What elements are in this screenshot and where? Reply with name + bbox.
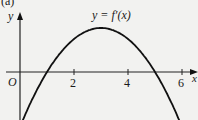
y-axis-label: y <box>7 9 14 23</box>
derivative-curve <box>20 28 182 120</box>
y-axis-arrow-icon <box>17 12 23 20</box>
origin-label: O <box>8 75 17 89</box>
part-label: (a) <box>1 0 14 8</box>
x-axis-label: x <box>191 72 197 84</box>
graph-figure: (a) y x O 2 4 6 y = f′(x) <box>0 0 198 120</box>
x-tick-label-6: 6 <box>178 76 184 90</box>
x-tick-label-4: 4 <box>124 76 130 90</box>
graph-canvas: (a) y x O 2 4 6 y = f′(x) <box>0 0 198 120</box>
curve-label: y = f′(x) <box>91 8 131 22</box>
x-tick-label-2: 2 <box>70 76 76 90</box>
